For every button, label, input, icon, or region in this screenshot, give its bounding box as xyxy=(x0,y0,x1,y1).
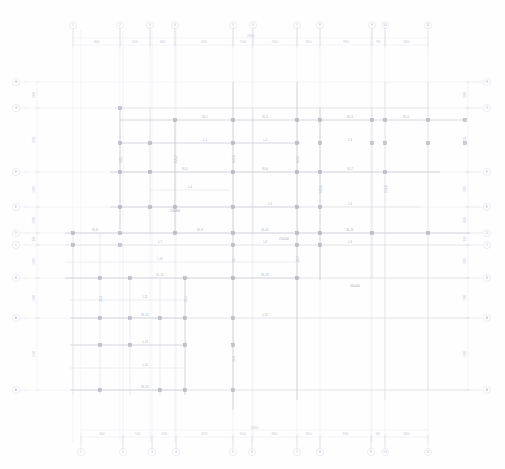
grid-bubble-label-G: G xyxy=(486,106,489,110)
beam-label: KL-4 xyxy=(403,115,409,119)
grid-bubble-label-A: A xyxy=(486,388,489,392)
column-marker xyxy=(231,205,234,208)
dimension-value: 2100 xyxy=(135,432,141,436)
column-marker xyxy=(98,276,101,279)
beam-label: KL-15 xyxy=(142,385,149,389)
beam-label: KZL-5 xyxy=(319,185,323,193)
dimension-value: 2400 xyxy=(463,258,467,264)
column-marker xyxy=(148,141,151,144)
grid-bubbles-bottom[interactable]: 1234567891011 xyxy=(77,434,431,455)
column-marker xyxy=(383,118,386,121)
dimension-chain-right: 1800450024001800900240027005100 xyxy=(463,81,469,391)
beam-label: KL-10 xyxy=(262,228,269,232)
beam-label: KL-1 xyxy=(202,115,208,119)
beam-label: KL-14 xyxy=(142,313,149,317)
beam-label: KL-3 xyxy=(347,115,353,119)
grid-bubble-label-A: A xyxy=(15,388,18,392)
column-marker xyxy=(231,316,234,319)
dimension-value: 3300 xyxy=(404,432,410,436)
beam-label: KL-6 xyxy=(262,167,268,171)
column-marker xyxy=(173,231,176,234)
dimension-value: 2400 xyxy=(32,186,36,192)
beam-label: KZL-4 xyxy=(296,155,300,163)
column-marker xyxy=(128,276,131,279)
beam-label: L-12 xyxy=(262,313,268,317)
beam-label: L-5 xyxy=(268,202,272,206)
grid-bubble-label-9: 9 xyxy=(370,450,372,454)
grid-bubble-label-E: E xyxy=(15,205,18,209)
column-marker xyxy=(173,118,176,121)
grid-bubble-label-9: 9 xyxy=(371,23,373,27)
beam-label: KL-7 xyxy=(347,167,353,171)
beam-label: 200x400 xyxy=(350,284,361,288)
beam-label: ZL-5 xyxy=(232,356,236,362)
column-marker xyxy=(118,106,121,109)
column-marker xyxy=(98,343,101,346)
grid-bubble-label-6: 6 xyxy=(252,23,254,27)
column-marker xyxy=(318,118,321,121)
grid-bubble-label-5: 5 xyxy=(232,23,234,27)
dimension-value: 1800 xyxy=(32,92,36,98)
grid-bubble-label-A: A xyxy=(486,316,489,320)
grid-bubble-label-C: C xyxy=(486,243,489,247)
column-marker xyxy=(118,205,121,208)
column-marker xyxy=(118,170,121,173)
column-marker xyxy=(295,205,298,208)
beam-label: L-1 xyxy=(203,138,207,142)
column-marker xyxy=(158,388,161,391)
column-marker xyxy=(370,118,373,121)
column-marker xyxy=(128,343,131,346)
grid-bubbles-left[interactable]: HGFEDCBAA xyxy=(12,78,29,393)
column-marker xyxy=(231,388,234,391)
dimension-value: 4200 xyxy=(202,432,208,436)
framing-plan-canvas[interactable]: KL-1KL-2KL-3KL-4L-1L-2L-3KL-5KL-6KL-7L-4… xyxy=(0,0,505,469)
column-marker xyxy=(295,276,298,279)
column-marker xyxy=(118,141,121,144)
column-marker xyxy=(231,243,234,246)
grid-lines-vertical xyxy=(73,30,428,442)
column-marker xyxy=(183,276,186,279)
beam-label: KL-9 xyxy=(197,228,203,232)
drawing-sheet: KL-1KL-2KL-3KL-4L-1L-2L-3KL-5KL-6KL-7L-4… xyxy=(0,0,505,469)
grid-bubble-label-6: 6 xyxy=(251,450,253,454)
beam-label: L-8 xyxy=(263,240,267,244)
dimension-value: 3300 xyxy=(272,40,278,44)
grid-bubble-label-4: 4 xyxy=(174,23,176,27)
column-marker xyxy=(370,231,373,234)
column-marker xyxy=(383,141,386,144)
dimension-value: 1800 xyxy=(463,217,467,223)
beam-label: L-14 xyxy=(142,363,148,367)
dimension-value: 3900 xyxy=(343,40,349,44)
column-marker xyxy=(148,170,151,173)
beam-label: ZL-2 xyxy=(296,256,300,262)
column-marker xyxy=(231,343,234,346)
beam-label: 250x600 xyxy=(170,209,181,213)
beam-label: L-3 xyxy=(348,138,352,142)
grid-bubble-label-1: 1 xyxy=(72,23,74,27)
dimension-value: 3900 xyxy=(343,432,349,436)
column-marker xyxy=(383,170,386,173)
dimension-value: 900 xyxy=(32,236,36,241)
column-marker xyxy=(318,205,321,208)
column-marker xyxy=(370,141,373,144)
beam-label: L-6 xyxy=(348,202,352,206)
dimension-value: 4200 xyxy=(201,40,207,44)
beam-label: ZL-1 xyxy=(232,256,236,262)
dimension-value: 5100 xyxy=(32,351,36,357)
dimension-value: 900 xyxy=(376,40,381,44)
dimension-value: 1800 xyxy=(32,217,36,223)
grid-bubble-label-B: B xyxy=(15,276,18,280)
beam-label: KZL-1 xyxy=(119,155,123,163)
grid-bubbles-right[interactable]: HGFEDCBAA xyxy=(467,78,490,393)
dimension-value: 900 xyxy=(463,236,467,241)
dimension-value-overall: 25800 xyxy=(251,426,259,430)
column-marker xyxy=(318,141,321,144)
dimension-value: 2400 xyxy=(32,258,36,264)
dimension-chain-top: 3600210018004200150033001800390090033002… xyxy=(72,27,429,46)
column-marker xyxy=(318,231,321,234)
grid-bubble-label-H: H xyxy=(486,80,489,84)
beam-label: 250x500 xyxy=(279,237,290,241)
dimension-value: 2400 xyxy=(463,186,467,192)
dimension-value: 3300 xyxy=(272,432,278,436)
dimension-value: 5100 xyxy=(463,351,467,357)
